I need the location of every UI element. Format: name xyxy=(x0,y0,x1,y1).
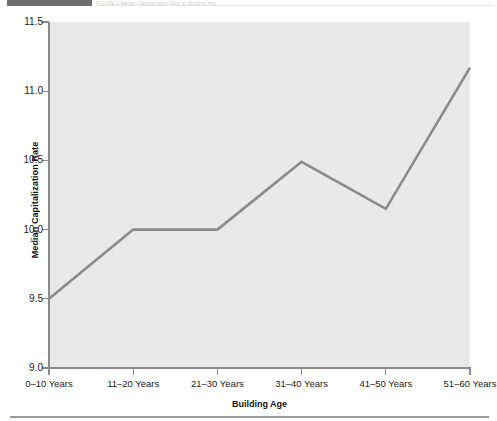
header-dark-block xyxy=(7,0,92,6)
page-header-strip: FIGURE 1 Median Capitalization Rate by B… xyxy=(0,0,497,7)
line-chart-figure: Median Capitalization Rate 9.09.510.010.… xyxy=(0,7,497,421)
data-line-svg xyxy=(0,7,497,421)
series-line xyxy=(49,68,470,299)
header-rule xyxy=(96,5,494,6)
figure-bottom-rule xyxy=(10,416,489,418)
x-axis-title: Building Age xyxy=(49,399,470,409)
